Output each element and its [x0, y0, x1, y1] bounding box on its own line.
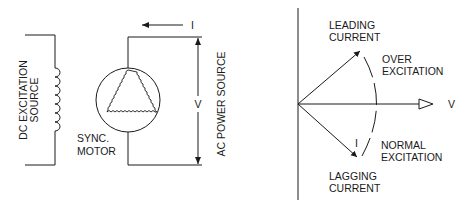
field-coil-icon — [55, 68, 60, 131]
normal-excitation-label: NORMAL — [381, 139, 426, 151]
lagging-current-phasor — [298, 104, 357, 157]
motor-label: SYNC. — [77, 132, 109, 144]
over-excitation-label: OVER — [382, 53, 412, 65]
diagram-canvas: DC EXCITATION SOURCE SYNC. MOTOR I V AC … — [0, 0, 463, 206]
excitation-dashed-arc — [362, 57, 377, 156]
leading-current-phasor — [298, 51, 360, 104]
ac-source-label: AC POWER SOURCE — [215, 51, 227, 156]
leading-current-label: LEADING — [329, 19, 375, 31]
leading-current-label-line2: CURRENT — [329, 31, 381, 43]
current-label: I — [191, 19, 194, 31]
phasor-voltage-label: V — [448, 98, 455, 110]
voltage-label: V — [194, 98, 201, 110]
lagging-current-label: LAGGING — [329, 170, 377, 182]
motor-label-line2: MOTOR — [77, 145, 116, 157]
normal-excitation-label-line2: EXCITATION — [381, 151, 442, 163]
dc-source-label-line2: SOURCE — [28, 78, 40, 123]
phasor-current-label: I — [355, 137, 358, 149]
lagging-current-label-line2: CURRENT — [329, 182, 381, 194]
voltage-open-arrowhead-icon — [419, 99, 433, 109]
over-excitation-label-line2: EXCITATION — [382, 65, 443, 77]
